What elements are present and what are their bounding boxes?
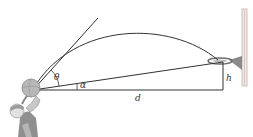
distance-label: d [135, 93, 141, 103]
theta-label: θ [54, 72, 60, 82]
basketball-player [10, 93, 40, 137]
projectile-diagram: θ α d h [0, 0, 253, 137]
trajectory-arc [35, 33, 218, 86]
alpha-label: α [80, 80, 86, 90]
backboard [242, 9, 247, 86]
height-label: h [226, 73, 232, 83]
launch-direction-line [33, 18, 98, 90]
line-of-sight [33, 62, 223, 90]
basketball [22, 79, 40, 97]
